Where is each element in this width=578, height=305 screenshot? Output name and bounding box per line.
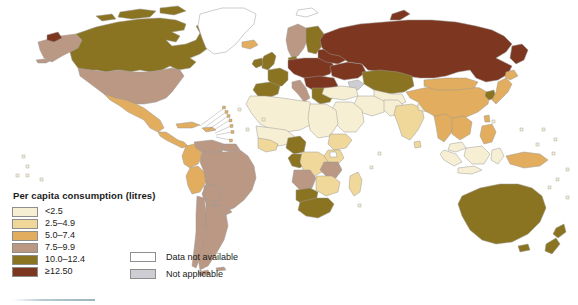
legend-label-10-0-12-4: 10.0–12.4 <box>45 254 85 265</box>
region-sri-lanka <box>414 141 421 148</box>
legend-swatch-lt-2-5 <box>12 207 38 218</box>
legend-label-data-not-available: Data not available <box>166 252 238 263</box>
legend-label-2-5-4-9: 2.5–4.9 <box>45 218 75 229</box>
map-legend: Per capita consumption (litres) <2.5 2.5… <box>12 190 262 281</box>
legend-label-7-5-9-9: 7.5–9.9 <box>45 242 75 253</box>
legend-label-gte-12-50: ≥12.50 <box>45 266 72 277</box>
legend-swatch-5-0-7-4 <box>12 231 38 242</box>
legend-title: Per capita consumption (litres) <box>13 190 262 201</box>
legend-item-5-0-7-4[interactable]: 5.0–7.4 <box>12 230 120 242</box>
legend-swatch-data-not-available <box>130 252 156 263</box>
region-mongolia <box>424 78 478 90</box>
region-uganda-highlight <box>330 152 337 157</box>
legend-item-not-applicable[interactable]: Not applicable <box>130 267 238 281</box>
legend-swatch-10-0-12-4 <box>12 255 38 266</box>
legend-swatch-7-5-9-9 <box>12 243 38 254</box>
legend-body: <2.5 2.5–4.9 5.0–7.4 7.5–9.9 10.0–12.4 <box>12 206 262 281</box>
legend-item-10-0-12-4[interactable]: 10.0–12.4 <box>12 254 120 266</box>
legend-swatch-2-5-4-9 <box>12 219 38 230</box>
legend-extra-column: Data not available Not applicable <box>130 206 238 281</box>
legend-label-lt-2-5: <2.5 <box>45 206 63 217</box>
footer-rule <box>13 299 95 301</box>
legend-label-not-applicable: Not applicable <box>166 269 223 280</box>
legend-swatch-not-applicable <box>130 269 156 280</box>
legend-item-data-not-available[interactable]: Data not available <box>130 250 238 264</box>
legend-label-5-0-7-4: 5.0–7.4 <box>45 230 75 241</box>
legend-item-gte-12-50[interactable]: ≥12.50 <box>12 266 120 278</box>
legend-scale-column: <2.5 2.5–4.9 5.0–7.4 7.5–9.9 10.0–12.4 <box>12 206 120 278</box>
region-taiwan <box>484 115 490 122</box>
legend-item-7-5-9-9[interactable]: 7.5–9.9 <box>12 242 120 254</box>
legend-item-2-5-4-9[interactable]: 2.5–4.9 <box>12 218 120 230</box>
legend-item-lt-2-5[interactable]: <2.5 <box>12 206 120 218</box>
legend-swatch-gte-12-50 <box>12 267 38 278</box>
world-map-figure: Per capita consumption (litres) <2.5 2.5… <box>0 0 578 305</box>
